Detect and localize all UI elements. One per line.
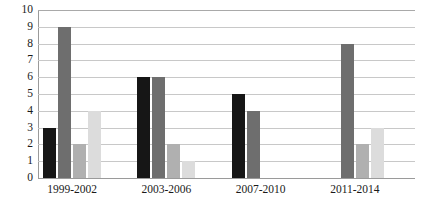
y-tick-label-3: 3 (3, 122, 33, 134)
y-tick-label-1: 1 (3, 155, 33, 167)
bar-chart: 012345678910 1999-20022003-20062007-2010… (0, 0, 438, 214)
bar[interactable] (356, 144, 369, 178)
y-tick-label-5: 5 (3, 88, 33, 100)
gridline-0 (38, 178, 415, 179)
bar-group (137, 10, 195, 178)
y-tick-label-6: 6 (3, 71, 33, 83)
y-tick-label-0: 0 (3, 172, 33, 184)
y-tick-label-10: 10 (3, 4, 33, 16)
plot-area (38, 10, 415, 178)
bar[interactable] (371, 128, 384, 178)
bar[interactable] (137, 77, 150, 178)
bar[interactable] (182, 161, 195, 178)
y-tick-label-7: 7 (3, 55, 33, 67)
bar[interactable] (341, 44, 354, 178)
bar-group (43, 10, 101, 178)
bar[interactable] (73, 144, 86, 178)
bar[interactable] (232, 94, 245, 178)
x-tick-label-2011-2014: 2011-2014 (330, 182, 379, 196)
bar[interactable] (167, 144, 180, 178)
x-axis-tick-labels: 1999-20022003-20062007-20102011-2014 (38, 182, 415, 204)
y-tick-label-8: 8 (3, 38, 33, 50)
y-tick-label-2: 2 (3, 139, 33, 151)
y-tick-label-4: 4 (3, 105, 33, 117)
bar[interactable] (58, 27, 71, 178)
y-tick-label-9: 9 (3, 21, 33, 33)
x-tick-label-2007-2010: 2007-2010 (236, 182, 286, 196)
bar[interactable] (88, 111, 101, 178)
bar-group (326, 10, 384, 178)
x-tick-label-1999-2002: 1999-2002 (47, 182, 97, 196)
bar[interactable] (152, 77, 165, 178)
bar-group (232, 10, 290, 178)
bar[interactable] (43, 128, 56, 178)
x-tick-label-2003-2006: 2003-2006 (141, 182, 191, 196)
y-axis-tick-labels: 012345678910 (0, 10, 33, 178)
bar[interactable] (247, 111, 260, 178)
